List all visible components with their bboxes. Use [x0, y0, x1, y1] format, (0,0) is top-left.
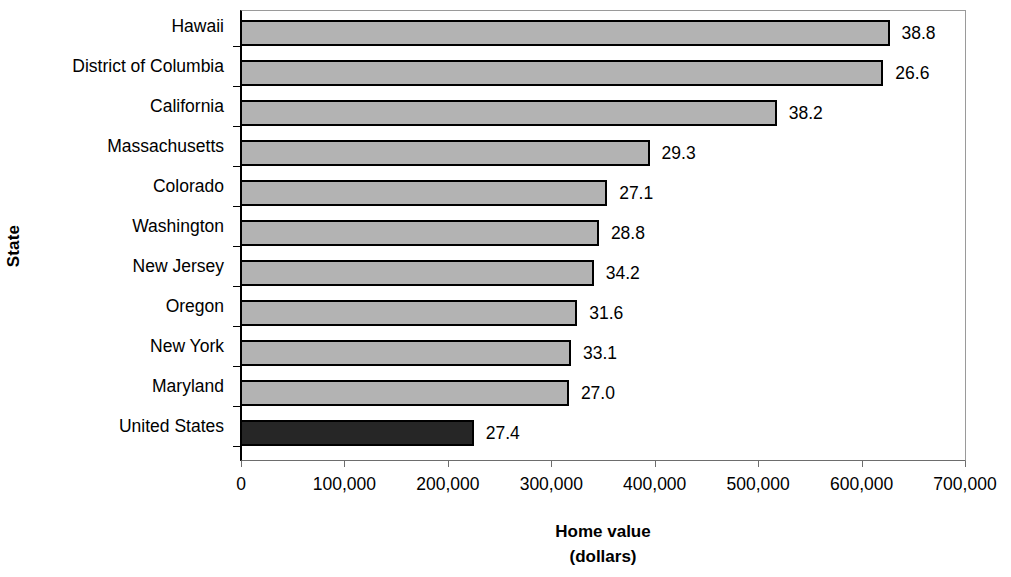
bar-value-label: 38.2 — [789, 100, 823, 126]
bar-value-label: 31.6 — [589, 300, 623, 326]
bar[interactable] — [240, 260, 594, 286]
y-axis-tick — [233, 326, 240, 327]
bar[interactable] — [240, 420, 474, 446]
x-axis-title-line2: (dollars) — [240, 544, 966, 569]
y-axis-tick — [233, 86, 240, 87]
y-axis-tick — [233, 406, 240, 407]
bar[interactable] — [240, 60, 883, 86]
bar[interactable] — [240, 100, 777, 126]
x-axis-tick-label: 700,000 — [933, 474, 996, 495]
bar[interactable] — [240, 140, 650, 166]
x-axis-tick-label: 500,000 — [727, 474, 790, 495]
category-label: Maryland — [152, 373, 224, 399]
x-axis-tick — [758, 461, 759, 467]
y-axis-tick — [233, 446, 240, 447]
bar-value-label: 27.0 — [581, 380, 615, 406]
bar[interactable] — [240, 300, 577, 326]
bar[interactable] — [240, 220, 599, 246]
bar-value-label: 34.2 — [606, 260, 640, 286]
x-axis-tick — [862, 461, 863, 467]
x-axis-tick-label: 400,000 — [623, 474, 686, 495]
bar-row: 27.4 — [240, 413, 966, 453]
x-axis-tick — [965, 461, 966, 467]
bar-row: 31.6 — [240, 293, 966, 333]
bar-value-label: 27.1 — [619, 180, 653, 206]
bars-layer: 38.826.638.229.327.128.834.231.633.127.0… — [240, 10, 966, 461]
bar-chart: State HawaiiDistrict of ColumbiaCaliforn… — [0, 0, 1011, 577]
bar-value-label: 27.4 — [486, 420, 520, 446]
category-label: Massachusetts — [107, 133, 224, 159]
category-label: Hawaii — [171, 13, 224, 39]
bar-row: 28.8 — [240, 213, 966, 253]
x-axis-tick-label: 100,000 — [313, 474, 376, 495]
bar[interactable] — [240, 20, 890, 46]
bar-row: 26.6 — [240, 53, 966, 93]
x-axis-tick-label: 0 — [236, 474, 246, 495]
bar-value-label: 26.6 — [895, 60, 929, 86]
x-axis-tick — [344, 461, 345, 467]
category-label: Colorado — [153, 173, 224, 199]
bar[interactable] — [240, 180, 607, 206]
y-axis-tick — [233, 126, 240, 127]
category-label: New York — [150, 333, 224, 359]
x-axis-title-line1: Home value — [240, 519, 966, 544]
bar-row: 27.0 — [240, 373, 966, 413]
y-axis-tick — [233, 46, 240, 47]
bar[interactable] — [240, 380, 569, 406]
bar-value-label: 38.8 — [902, 20, 936, 46]
x-axis-title: Home value (dollars) — [240, 519, 966, 569]
category-label: Oregon — [166, 293, 224, 319]
y-axis-tick — [233, 366, 240, 367]
bar-row: 27.1 — [240, 173, 966, 213]
y-axis-category-labels: HawaiiDistrict of ColumbiaCaliforniaMass… — [0, 10, 232, 460]
category-label: New Jersey — [133, 253, 224, 279]
x-axis-tick — [448, 461, 449, 467]
x-axis-tick — [655, 461, 656, 467]
category-label: Washington — [132, 213, 224, 239]
bar[interactable] — [240, 340, 571, 366]
x-axis-tick-label: 600,000 — [830, 474, 893, 495]
x-axis-tick — [241, 461, 242, 467]
category-label: District of Columbia — [72, 53, 224, 79]
bar-value-label: 33.1 — [583, 340, 617, 366]
y-axis-tick — [233, 246, 240, 247]
bar-value-label: 29.3 — [662, 140, 696, 166]
x-axis-tick-label: 300,000 — [520, 474, 583, 495]
y-axis-tick — [233, 286, 240, 287]
y-axis-tick — [233, 166, 240, 167]
bar-row: 38.2 — [240, 93, 966, 133]
bar-row: 38.8 — [240, 13, 966, 53]
bar-row: 34.2 — [240, 253, 966, 293]
category-label: California — [150, 93, 224, 119]
category-label: United States — [119, 413, 224, 439]
bar-row: 29.3 — [240, 133, 966, 173]
y-axis-tick — [233, 206, 240, 207]
bar-row: 33.1 — [240, 333, 966, 373]
bar-value-label: 28.8 — [611, 220, 645, 246]
x-axis-tick — [551, 461, 552, 467]
x-axis-tick-label: 200,000 — [416, 474, 479, 495]
